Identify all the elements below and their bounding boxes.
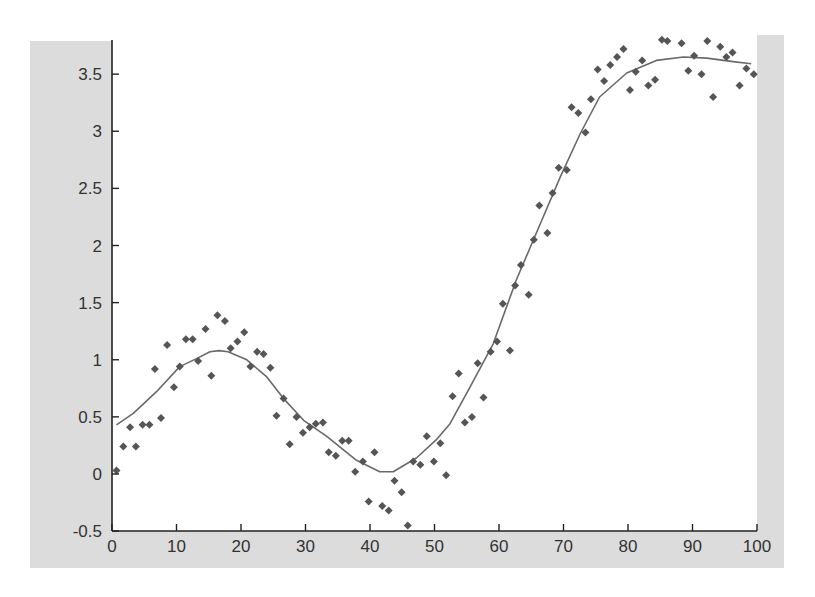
x-tick-label: 0 — [107, 537, 116, 556]
x-tick-label: 80 — [619, 537, 638, 556]
right-gray-strip — [757, 35, 784, 41]
x-tick-label: 70 — [554, 537, 573, 556]
y-tick-label: 3.5 — [78, 65, 102, 84]
x-tick-label: 100 — [743, 537, 771, 556]
figure: 0102030405060708090100 -0.500.511.522.53… — [0, 0, 815, 597]
x-tick-label: 40 — [361, 537, 380, 556]
x-tick-label: 30 — [296, 537, 315, 556]
x-tick-label: 50 — [425, 537, 444, 556]
x-tick-label: 10 — [167, 537, 186, 556]
x-tick-label: 60 — [490, 537, 509, 556]
top-white-margin — [757, 0, 815, 35]
y-tick-label: 0 — [93, 465, 102, 484]
y-tick-label: 2 — [93, 237, 102, 256]
y-tick-label: -0.5 — [73, 522, 102, 541]
x-tick-label: 90 — [683, 537, 702, 556]
axes-background — [112, 0, 757, 531]
y-tick-label: 1.5 — [78, 294, 102, 313]
y-tick-label: 3 — [93, 122, 102, 141]
y-tick-label: 2.5 — [78, 179, 102, 198]
x-tick-label: 20 — [232, 537, 251, 556]
y-tick-label: 1 — [93, 351, 102, 370]
y-tick-label: 0.5 — [78, 408, 102, 427]
